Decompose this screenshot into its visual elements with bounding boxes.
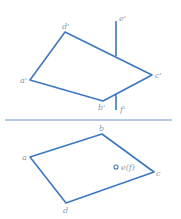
label-e-prime: e': [119, 14, 126, 23]
label-a: a: [22, 153, 27, 162]
label-d-prime: d': [62, 22, 69, 31]
label-b-prime: b': [98, 103, 105, 112]
projection-diagram: d' e' a' c' b' f' b a e(f) c d: [0, 0, 181, 219]
label-c: c: [156, 169, 161, 178]
top-view: b a e(f) c d: [22, 124, 161, 215]
label-c-prime: c': [155, 71, 162, 80]
label-f-prime: f': [119, 105, 125, 114]
point-ef: [114, 165, 118, 169]
label-ef: e(f): [121, 163, 135, 172]
plane-abcd-front: [30, 32, 152, 101]
label-d: d: [63, 206, 68, 215]
label-b: b: [99, 124, 104, 133]
plane-abcd-top: [30, 134, 154, 203]
label-a-prime: a': [20, 76, 27, 85]
front-view: d' e' a' c' b' f': [20, 14, 162, 114]
